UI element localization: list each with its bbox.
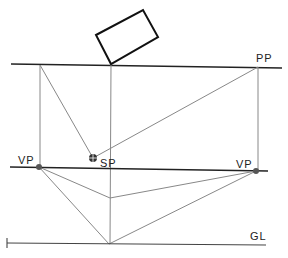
vanishing-point-right-dot (253, 168, 259, 174)
station-point-marker (89, 154, 97, 162)
object-plan-rectangle (96, 10, 158, 64)
ground-line (7, 243, 266, 245)
vanishing-point-right-label: VP (236, 158, 253, 170)
ground-line-label: GL (250, 230, 267, 242)
vp-right-to-top-edge (110, 171, 256, 198)
vp-left-to-top-edge (39, 167, 110, 198)
vanishing-point-left-label: VP (18, 154, 35, 166)
picture-plane-label: PP (256, 52, 273, 64)
perspective-diagram: PP SP VP VP GL (0, 0, 288, 258)
sightline-left (40, 65, 93, 158)
horizon-line (10, 167, 268, 171)
sightline-right (93, 67, 258, 158)
vp-left-to-ground (39, 167, 109, 244)
vp-right-to-ground (109, 171, 256, 244)
vanishing-point-left-dot (36, 164, 42, 170)
station-point-label: SP (100, 157, 117, 169)
projector-center-vertical (110, 65, 111, 244)
picture-plane-line (11, 64, 282, 68)
